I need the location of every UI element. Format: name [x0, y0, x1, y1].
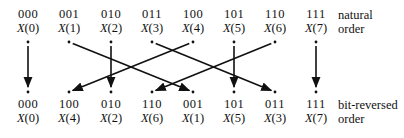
natural-order-label-1: natural [338, 9, 373, 22]
top-bits-2: 010 [91, 8, 131, 21]
node-dot [68, 91, 71, 94]
top-x-1: X(1) [49, 22, 89, 35]
node-dot [233, 41, 236, 44]
bottom-x-4: X(1) [173, 112, 213, 125]
node-dot [110, 91, 113, 94]
top-x-0: X(0) [8, 22, 48, 35]
bottom-x-5: X(5) [214, 112, 254, 125]
top-x-6: X(6) [255, 22, 295, 35]
top-x-2: X(2) [91, 22, 131, 35]
bottom-bits-1: 100 [49, 98, 89, 111]
top-bits-6: 110 [255, 8, 295, 21]
top-bits-7: 111 [296, 8, 336, 21]
bottom-x-7: X(7) [296, 112, 336, 125]
top-bits-4: 100 [173, 8, 213, 21]
bottom-x-1: X(4) [49, 112, 89, 125]
top-x-3: X(3) [132, 22, 172, 35]
bit-reversed-order-label-2: order [338, 113, 364, 126]
bottom-bits-0: 000 [8, 98, 48, 111]
node-dot [27, 41, 30, 44]
top-bits-3: 011 [132, 8, 172, 21]
top-x-4: X(4) [173, 22, 213, 35]
top-bits-0: 000 [8, 8, 48, 21]
node-dot [68, 41, 71, 44]
bottom-bits-3: 110 [132, 98, 172, 111]
bottom-x-6: X(3) [255, 112, 295, 125]
bottom-bits-7: 111 [296, 98, 336, 111]
node-dot [27, 91, 30, 94]
node-dot [315, 41, 318, 44]
node-dot [110, 41, 113, 44]
node-dot [192, 91, 195, 94]
bottom-bits-5: 101 [214, 98, 254, 111]
bottom-x-3: X(6) [132, 112, 172, 125]
node-dot [274, 91, 277, 94]
top-bits-1: 001 [49, 8, 89, 21]
top-x-5: X(5) [214, 22, 254, 35]
node-dot [151, 41, 154, 44]
bottom-bits-6: 011 [255, 98, 295, 111]
top-x-7: X(7) [296, 22, 336, 35]
bottom-x-0: X(0) [8, 112, 48, 125]
bit-reversed-order-label-1: bit-reversed [338, 99, 398, 112]
node-dot [233, 91, 236, 94]
node-dot [151, 91, 154, 94]
top-bits-5: 101 [214, 8, 254, 21]
bottom-bits-4: 001 [173, 98, 213, 111]
bottom-x-2: X(2) [91, 112, 131, 125]
node-dot [192, 41, 195, 44]
node-dot [315, 91, 318, 94]
natural-order-label-2: order [338, 23, 364, 36]
bottom-bits-2: 010 [91, 98, 131, 111]
node-dot [274, 41, 277, 44]
